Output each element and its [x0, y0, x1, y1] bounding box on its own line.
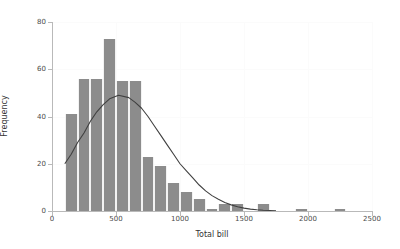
y-tick-mark — [48, 69, 52, 70]
y-tick-mark — [48, 117, 52, 118]
histogram-figure: 020406080 05001000150020002500 Frequency… — [0, 0, 400, 249]
x-tick-label: 0 — [50, 215, 54, 223]
x-tick-label: 1000 — [171, 215, 189, 223]
x-tick-label: 500 — [109, 215, 122, 223]
y-tick-label: 0 — [42, 207, 46, 215]
y-tick-mark — [48, 22, 52, 23]
y-tick-label: 40 — [37, 113, 46, 121]
x-axis-line — [52, 211, 373, 212]
y-axis-line — [52, 22, 53, 212]
x-axis-title: Total bill — [196, 230, 229, 239]
density-curve-path — [65, 95, 276, 211]
y-axis-title: Frequency — [0, 95, 9, 136]
x-tick-label: 1500 — [235, 215, 253, 223]
y-tick-label: 80 — [37, 18, 46, 26]
x-tick-label: 2500 — [363, 215, 381, 223]
y-tick-mark — [48, 164, 52, 165]
y-tick-label: 20 — [37, 160, 46, 168]
density-curve-overlay — [52, 22, 372, 211]
plot-area — [52, 22, 372, 211]
gridline-vertical — [372, 22, 373, 211]
x-tick-label: 2000 — [299, 215, 317, 223]
y-tick-label: 60 — [37, 65, 46, 73]
